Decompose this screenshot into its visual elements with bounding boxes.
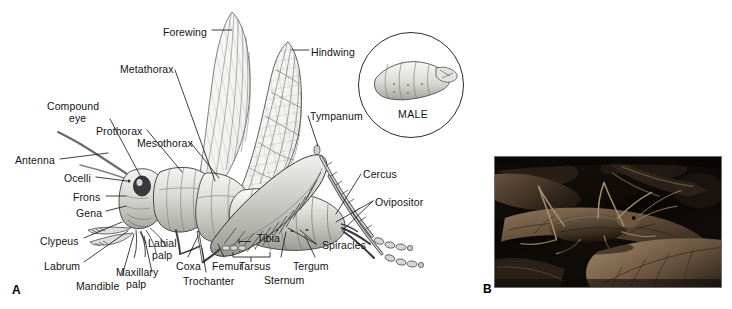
- label-spiracles: Spiracles: [322, 240, 366, 252]
- male-inset-label: MALE: [398, 108, 428, 120]
- katydid-photograph: [495, 157, 721, 287]
- male-abdomen-drawing: [358, 32, 464, 138]
- panel-b-photo: [494, 156, 722, 288]
- tympanum-mark: [314, 145, 320, 155]
- label-ovipositor: Ovipositor: [375, 197, 423, 209]
- figure-root: MALE Forewing Hindwing Metathorax Compou…: [0, 0, 732, 309]
- label-ocelli: Ocelli: [64, 173, 91, 185]
- label-clypeus: Clypeus: [40, 236, 79, 248]
- panel-b-letter: B: [483, 282, 492, 296]
- label-compound-eye-line1: Compound: [47, 101, 99, 113]
- label-tympanum: Tympanum: [310, 111, 363, 123]
- male-inset: MALE: [358, 32, 466, 140]
- label-tarsus: Tarsus: [239, 261, 271, 273]
- label-labrum: Labrum: [44, 261, 80, 273]
- label-gena: Gena: [76, 208, 102, 220]
- label-labial-palp-line1: Labial: [148, 238, 177, 250]
- label-antenna: Antenna: [15, 155, 55, 167]
- forewing-artwork: [196, 12, 250, 200]
- label-mandible: Mandible: [76, 281, 119, 293]
- label-frons: Frons: [73, 192, 100, 204]
- label-sternum: Sternum: [264, 275, 304, 287]
- label-prothorax: Prothorax: [96, 126, 142, 138]
- panel-a-letter: A: [12, 283, 21, 297]
- label-metathorax: Metathorax: [120, 64, 174, 76]
- label-tergum: Tergum: [293, 261, 329, 273]
- label-trochanter: Trochanter: [183, 276, 234, 288]
- label-maxillary-palp-line2: palp: [126, 279, 146, 291]
- label-hindwing: Hindwing: [311, 47, 355, 59]
- label-coxa: Coxa: [176, 261, 201, 273]
- label-forewing: Forewing: [163, 27, 207, 39]
- panel-a: MALE Forewing Hindwing Metathorax Compou…: [0, 0, 470, 309]
- label-tibia: Tibia: [257, 233, 280, 245]
- label-compound-eye-line2: eye: [69, 113, 86, 125]
- fore-tarsus: [222, 246, 246, 251]
- label-mesothorax: Mesothorax: [137, 138, 193, 150]
- label-labial-palp-line2: palp: [152, 250, 172, 262]
- label-cercus: Cercus: [363, 169, 397, 181]
- label-maxillary-palp-line1: Maxillary: [116, 267, 158, 279]
